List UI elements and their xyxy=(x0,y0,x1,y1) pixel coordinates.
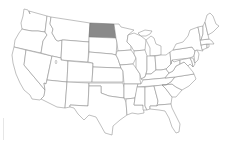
state-florida[interactable] xyxy=(150,104,180,133)
state-kansas[interactable] xyxy=(92,67,123,82)
state-maine[interactable] xyxy=(205,13,219,35)
state-arizona[interactable] xyxy=(41,80,67,108)
state-iowa[interactable] xyxy=(116,50,136,65)
state-montana[interactable] xyxy=(50,17,90,42)
state-colorado[interactable] xyxy=(67,61,93,82)
state-new-mexico[interactable] xyxy=(65,82,89,108)
state-north-dakota[interactable] xyxy=(89,23,116,38)
state-rhode-island[interactable] xyxy=(207,44,209,48)
us-map xyxy=(0,0,231,146)
state-washington[interactable] xyxy=(21,9,47,32)
state-wyoming[interactable] xyxy=(61,40,89,62)
faint-watermark xyxy=(3,118,4,140)
state-new-jersey[interactable] xyxy=(194,50,199,63)
